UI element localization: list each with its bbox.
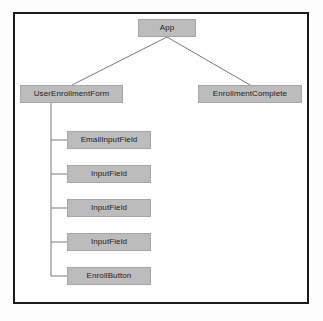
node-input-field-3-label: InputField <box>91 238 127 246</box>
node-app[interactable]: App <box>138 19 196 37</box>
node-enrollment-complete[interactable]: EnrollmentComplete <box>198 85 302 103</box>
node-input-field-2[interactable]: InputField <box>67 199 151 217</box>
node-enroll-button[interactable]: EnrollButton <box>67 267 151 285</box>
node-enrollment-complete-label: EnrollmentComplete <box>213 90 287 98</box>
edge-layer <box>0 0 323 321</box>
edge-app-to-userenrollmentform <box>72 37 167 85</box>
node-user-enrollment-form-label: UserEnrollmentForm <box>34 90 110 98</box>
node-app-label: App <box>160 24 175 32</box>
edge-app-to-enrollmentcomplete <box>167 37 250 85</box>
node-input-field-2-label: InputField <box>91 204 127 212</box>
component-tree-diagram: App UserEnrollmentForm EnrollmentComplet… <box>0 0 323 321</box>
node-input-field-1[interactable]: InputField <box>67 165 151 183</box>
node-input-field-1-label: InputField <box>91 170 127 178</box>
node-enroll-button-label: EnrollButton <box>87 272 132 280</box>
node-email-input-field[interactable]: EmailInputField <box>67 131 151 149</box>
node-email-input-field-label: EmailInputField <box>81 136 138 144</box>
node-user-enrollment-form[interactable]: UserEnrollmentForm <box>20 85 123 103</box>
node-input-field-3[interactable]: InputField <box>67 233 151 251</box>
